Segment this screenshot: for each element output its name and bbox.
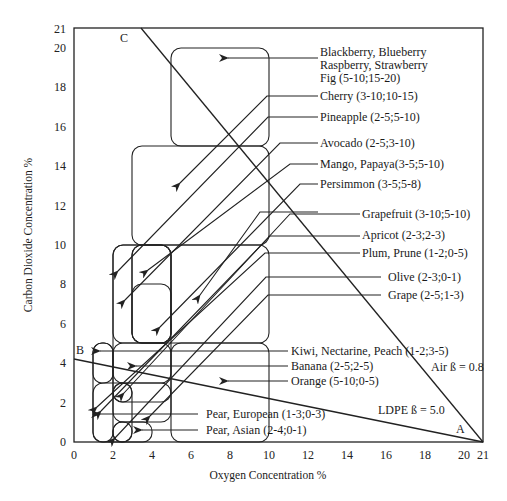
svg-text:6: 6 bbox=[188, 448, 194, 462]
svg-text:8: 8 bbox=[227, 448, 233, 462]
svg-text:Orange (5-10;0-5): Orange (5-10;0-5) bbox=[291, 374, 379, 388]
air-label: Air ß = 0.8 bbox=[431, 360, 484, 374]
svg-text:Grape (2-5;1-3): Grape (2-5;1-3) bbox=[388, 288, 464, 302]
svg-text:Kiwi, Nectarine, Peach (1-2;3-: Kiwi, Nectarine, Peach (1-2;3-5) bbox=[291, 344, 449, 358]
svg-text:2: 2 bbox=[60, 396, 66, 410]
svg-text:16: 16 bbox=[54, 120, 66, 134]
svg-text:18: 18 bbox=[419, 448, 431, 462]
svg-text:10: 10 bbox=[263, 448, 275, 462]
svg-text:20: 20 bbox=[458, 448, 470, 462]
svg-text:16: 16 bbox=[380, 448, 392, 462]
svg-text:14: 14 bbox=[341, 448, 353, 462]
svg-text:Olive (2-3;0-1): Olive (2-3;0-1) bbox=[388, 270, 461, 284]
svg-text:Avocado (2-5;3-10): Avocado (2-5;3-10) bbox=[320, 136, 415, 150]
svg-text:Pear, Asian (2-4;0-1): Pear, Asian (2-4;0-1) bbox=[206, 423, 307, 437]
svg-text:Grapefruit (3-10;5-10): Grapefruit (3-10;5-10) bbox=[362, 207, 470, 221]
svg-text:2: 2 bbox=[110, 448, 116, 462]
svg-text:Cherry (3-10;10-15): Cherry (3-10;10-15) bbox=[320, 89, 418, 103]
svg-text:Pear, European (1-3;0-3): Pear, European (1-3;0-3) bbox=[206, 407, 325, 421]
chart: 0 2 4 6 8 10 12 14 16 18 20 21 Carbon Di… bbox=[0, 0, 507, 501]
point-b: B bbox=[76, 343, 84, 357]
svg-text:14: 14 bbox=[54, 159, 66, 173]
svg-text:12: 12 bbox=[54, 199, 66, 213]
region-persimmon bbox=[132, 284, 171, 343]
svg-text:4: 4 bbox=[149, 448, 155, 462]
svg-text:21: 21 bbox=[477, 448, 489, 462]
svg-text:Pineapple (2-5;5-10): Pineapple (2-5;5-10) bbox=[320, 110, 420, 124]
svg-text:Persimmon (3-5;5-8): Persimmon (3-5;5-8) bbox=[320, 177, 421, 191]
svg-text:4: 4 bbox=[60, 356, 66, 370]
point-c: C bbox=[120, 31, 128, 45]
svg-text:10: 10 bbox=[54, 238, 66, 252]
svg-text:21: 21 bbox=[54, 22, 66, 36]
svg-text:20: 20 bbox=[54, 41, 66, 55]
x-axis: 0 2 4 6 8 10 12 14 16 18 20 21 Oxygen Co… bbox=[71, 448, 489, 482]
svg-text:12: 12 bbox=[302, 448, 314, 462]
svg-text:0: 0 bbox=[71, 448, 77, 462]
region-plum bbox=[93, 343, 113, 442]
y-axis-label: Carbon Dioxide Concentration % bbox=[22, 157, 34, 312]
ldpe-label: LDPE ß = 5.0 bbox=[378, 403, 445, 417]
svg-text:Blackberry, Blueberry: Blackberry, Blueberry bbox=[320, 45, 427, 59]
svg-text:Fig (5-10;15-20): Fig (5-10;15-20) bbox=[320, 71, 400, 85]
svg-text:Apricot (2-3;2-3): Apricot (2-3;2-3) bbox=[362, 228, 445, 242]
svg-text:8: 8 bbox=[60, 277, 66, 291]
svg-text:Plum, Prune (1-2;0-5): Plum, Prune (1-2;0-5) bbox=[362, 246, 468, 260]
x-axis-label: Oxygen Concentration % bbox=[210, 469, 327, 482]
svg-text:Raspberry, Strawberry: Raspberry, Strawberry bbox=[320, 58, 428, 72]
svg-text:18: 18 bbox=[54, 80, 66, 94]
svg-text:Mango, Papaya(3-5;5-10): Mango, Papaya(3-5;5-10) bbox=[320, 157, 444, 171]
svg-text:Banana (2-5;2-5): Banana (2-5;2-5) bbox=[291, 359, 373, 373]
region-avocado bbox=[113, 245, 171, 383]
point-a: A bbox=[456, 422, 465, 436]
svg-text:6: 6 bbox=[60, 317, 66, 331]
svg-text:0: 0 bbox=[60, 435, 66, 449]
y-axis: 0 2 4 6 8 10 12 14 16 18 20 21 Carbon Di… bbox=[22, 22, 66, 449]
